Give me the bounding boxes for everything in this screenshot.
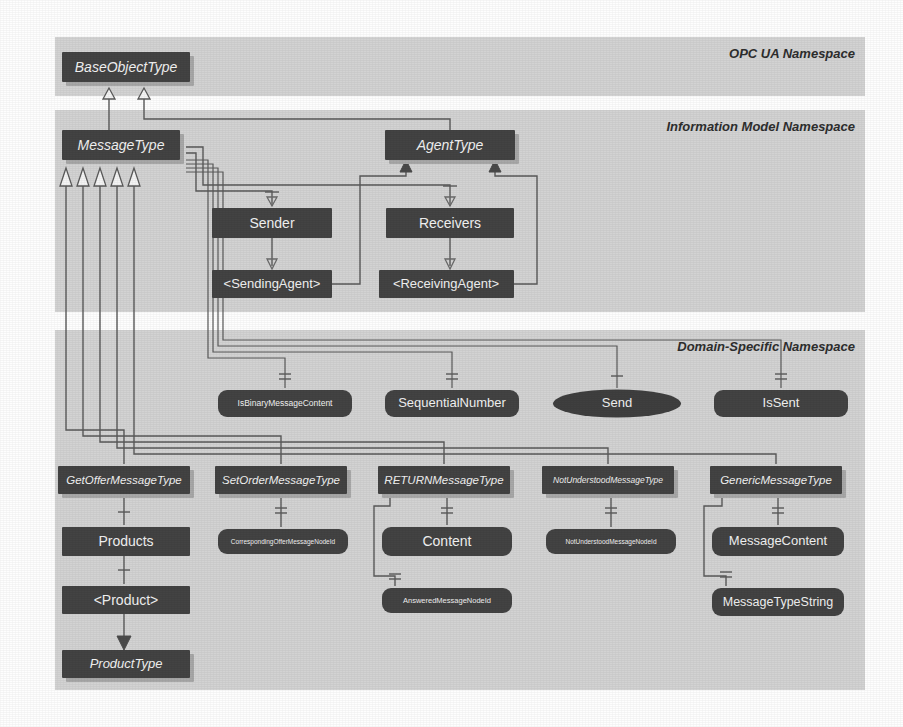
node-producttype[interactable]: ProductType — [62, 650, 194, 682]
node-label-messagetypestring: MessageTypeString — [723, 595, 834, 609]
node-label-sequentialnumber: SequentialNumber — [398, 395, 506, 410]
node-notunderstoodmessagenodeid[interactable]: NotUnderstoodMessageNodeId — [546, 529, 676, 554]
node-agenttype[interactable]: AgentType — [385, 130, 519, 164]
namespace-label-domain-specific: Domain-Specific Namespace — [677, 339, 855, 354]
node-messagetype[interactable]: MessageType — [62, 130, 184, 164]
node-label-messagetype: MessageType — [78, 137, 165, 153]
node-label-receivers: Receivers — [419, 215, 481, 231]
node-messagecontent[interactable]: MessageContent — [712, 527, 844, 556]
node-label-correspondingoffermessagenodeid: CorrespondingOfferMessageNodeId — [231, 538, 336, 546]
node-label-returnmessagetype: RETURNMessageType — [384, 474, 503, 486]
node-label-answeredmessagenodeid: AnsweredMessageNodeId — [403, 596, 491, 605]
node-baseobjecttype[interactable]: BaseObjectType — [62, 52, 194, 86]
node-label-agenttype: AgentType — [416, 137, 484, 153]
node-label-isbinarymessagecontent: IsBinaryMessageContent — [238, 398, 334, 408]
node-sequentialnumber[interactable]: SequentialNumber — [385, 390, 519, 417]
node-returnmessagetype[interactable]: RETURNMessageType — [378, 466, 514, 498]
node-label-setordermessagetype: SetOrderMessageType — [222, 474, 340, 486]
node-product[interactable]: <Product> — [62, 586, 190, 614]
namespace-label-opcua: OPC UA Namespace — [729, 46, 855, 61]
node-correspondingoffermessagenodeid[interactable]: CorrespondingOfferMessageNodeId — [218, 529, 348, 554]
node-label-baseobjecttype: BaseObjectType — [75, 59, 178, 75]
node-issent[interactable]: IsSent — [714, 390, 848, 417]
node-label-products: Products — [98, 533, 153, 549]
node-receivers[interactable]: Receivers — [386, 208, 514, 238]
node-getoffermessagetype[interactable]: GetOfferMessageType — [58, 466, 194, 498]
node-content[interactable]: Content — [382, 527, 512, 556]
node-receivingagent[interactable]: <ReceivingAgent> — [379, 270, 514, 298]
node-label-getoffermessagetype: GetOfferMessageType — [66, 474, 181, 486]
uml-diagram-svg: OPC UA Namespace Information Model Names… — [0, 0, 903, 727]
node-label-issent: IsSent — [763, 395, 800, 410]
node-label-sender: Sender — [249, 215, 294, 231]
node-label-send: Send — [602, 395, 632, 410]
node-send[interactable]: Send — [553, 390, 681, 418]
node-sender[interactable]: Sender — [212, 208, 332, 238]
node-messagetypestring[interactable]: MessageTypeString — [712, 588, 844, 616]
namespace-band-domain-specific — [55, 330, 865, 690]
node-label-messagecontent: MessageContent — [729, 533, 828, 548]
node-notunderstoodmessagetype[interactable]: NotUnderstoodMessageType — [542, 466, 678, 498]
node-sendingagent[interactable]: <SendingAgent> — [212, 270, 332, 298]
node-label-notunderstoodmessagenodeid: NotUnderstoodMessageNodeId — [565, 538, 656, 546]
node-setordermessagetype[interactable]: SetOrderMessageType — [215, 466, 351, 498]
node-isbinarymessagecontent[interactable]: IsBinaryMessageContent — [218, 390, 352, 417]
node-label-content: Content — [422, 533, 471, 549]
node-label-genericmessagetype: GenericMessageType — [720, 474, 832, 486]
node-label-receivingagent: <ReceivingAgent> — [393, 276, 499, 291]
node-genericmessagetype[interactable]: GenericMessageType — [710, 466, 846, 498]
node-label-product: <Product> — [94, 592, 159, 608]
node-label-sendingagent: <SendingAgent> — [224, 276, 321, 291]
node-label-notunderstoodmessagetype: NotUnderstoodMessageType — [553, 475, 663, 485]
node-answeredmessagenodeid[interactable]: AnsweredMessageNodeId — [382, 588, 512, 613]
node-label-producttype: ProductType — [90, 656, 163, 671]
namespace-label-information-model: Information Model Namespace — [666, 119, 855, 134]
node-products[interactable]: Products — [62, 527, 190, 556]
diagram-canvas: OPC UA Namespace Information Model Names… — [0, 0, 903, 727]
